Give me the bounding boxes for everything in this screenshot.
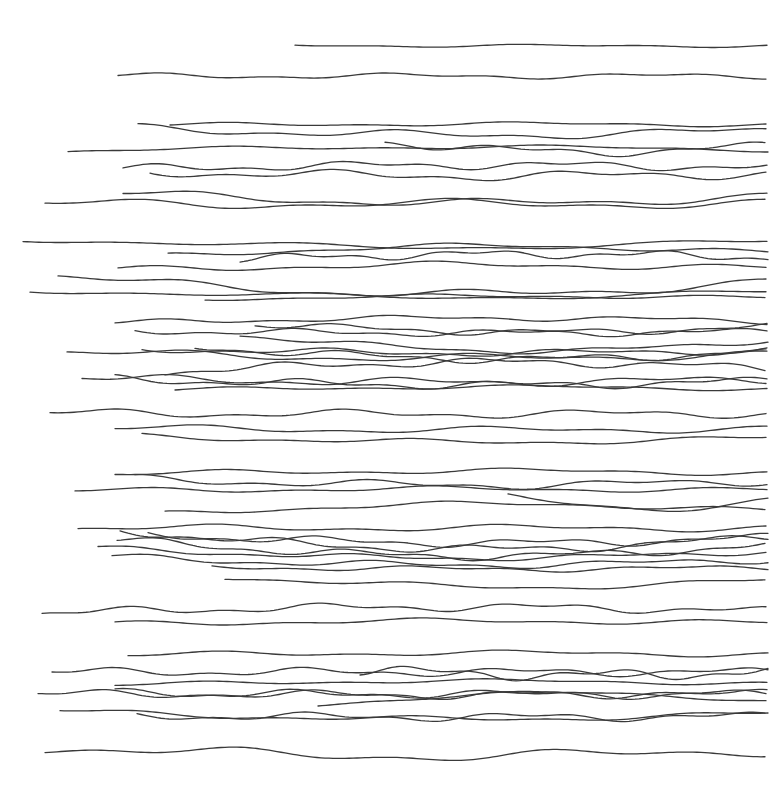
paper-background bbox=[0, 0, 770, 809]
abstract-line-drawing bbox=[0, 0, 770, 809]
